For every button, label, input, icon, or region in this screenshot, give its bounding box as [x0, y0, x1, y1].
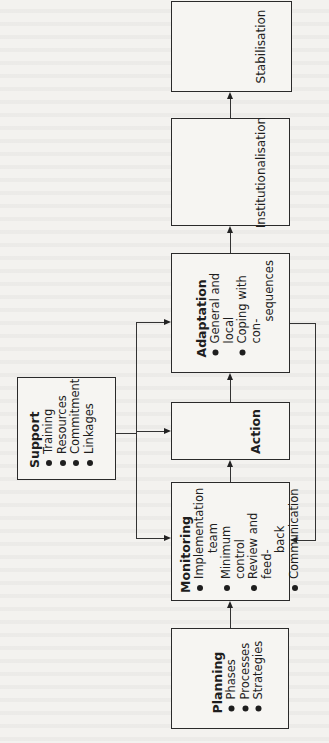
- support-item: Training: [42, 379, 56, 468]
- connector-action-adaptation: [230, 379, 231, 402]
- connector-support-adaptation: [136, 322, 165, 323]
- monitoring-list: Implementationteam Minimum control Revie…: [193, 486, 301, 593]
- arrow-head-icon: [164, 535, 171, 541]
- arrow-head-icon: [164, 319, 171, 325]
- connector-support-action: [136, 431, 165, 432]
- planning-item: Phases: [224, 640, 238, 713]
- adaptation-list: General and local Coping with con-sequen…: [208, 259, 276, 357]
- adaptation-item: Coping with con-sequences: [235, 259, 276, 357]
- monitoring-box: Monitoring Implementationteam Minimum co…: [171, 482, 290, 601]
- adaptation-box: Adaptation General and local Coping with…: [171, 253, 290, 373]
- action-title: Action: [247, 409, 262, 454]
- arrow-head-icon: [227, 92, 233, 99]
- stabilisation-box: Stabilisation: [171, 1, 292, 92]
- connector-feedback-out: [290, 323, 316, 324]
- monitoring-title: Monitoring: [178, 516, 193, 593]
- stabilisation-label: Stabilisation: [254, 10, 269, 84]
- institutionalisation-box: Institutionalisation: [171, 118, 290, 226]
- adaptation-title: Adaptation: [193, 279, 208, 357]
- connector-institutionalisation-stabilisation: [230, 98, 231, 118]
- monitoring-item: Review and feed-back: [247, 486, 288, 593]
- monitoring-item: Implementationteam: [193, 486, 220, 593]
- support-list: Training Resources Commitment Linkages: [42, 379, 96, 468]
- support-box: Support Training Resources Commitment Li…: [17, 377, 116, 480]
- planning-title: Planning: [209, 651, 224, 713]
- adaptation-item: General and local: [208, 259, 235, 357]
- planning-box: Planning Phases Processes Strategies: [171, 628, 289, 729]
- connector-support-monitoring: [136, 538, 165, 539]
- connector-feedback-vertical: [315, 323, 316, 541]
- planning-item: Strategies: [251, 640, 265, 713]
- arrow-head-icon: [290, 537, 297, 543]
- action-box: Action: [171, 402, 290, 460]
- support-item: Linkages: [83, 379, 97, 468]
- arrow-head-icon: [227, 460, 233, 467]
- connector-adaptation-institutionalisation: [230, 232, 231, 253]
- support-item: Resources: [56, 379, 70, 468]
- connector-monitoring-action: [230, 466, 231, 482]
- institutionalisation-label: Institutionalisation: [253, 116, 268, 227]
- arrow-head-icon: [227, 373, 233, 380]
- arrow-head-icon: [227, 601, 233, 608]
- monitoring-item: Minimum control: [220, 486, 247, 593]
- connector-planning-monitoring: [230, 607, 231, 628]
- support-title: Support: [27, 411, 42, 468]
- connector-feedback-in: [297, 540, 316, 541]
- arrow-head-icon: [164, 428, 171, 434]
- arrow-head-icon: [227, 226, 233, 233]
- connector-support-out: [116, 433, 136, 434]
- planning-item: Processes: [238, 640, 252, 713]
- support-item: Commitment: [69, 379, 83, 468]
- planning-list: Phases Processes Strategies: [224, 640, 265, 713]
